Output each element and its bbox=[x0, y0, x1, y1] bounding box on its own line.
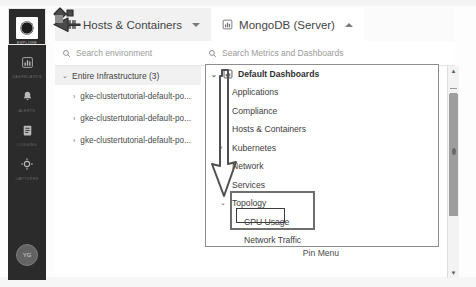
tree-label-node-1: gke-clustertutorial-default-po... bbox=[80, 92, 191, 101]
menu-label-cpu-usage: CPU Usage bbox=[244, 217, 289, 227]
scrollbar-down-arrow[interactable]: ▼ bbox=[448, 268, 459, 278]
tree-label-entire-infrastructure: Entire Infrastructure (3) bbox=[72, 71, 159, 81]
menu-label-applications: Applications bbox=[232, 87, 278, 97]
tab-hosts-and-containers[interactable]: Hosts & Containers bbox=[55, 8, 211, 41]
bar-chart-icon bbox=[16, 51, 38, 73]
rail-item-alerts[interactable]: Alerts bbox=[8, 79, 46, 113]
search-metrics-input[interactable]: Search Metrics and Dashboards bbox=[201, 41, 455, 66]
tree-item-node-3[interactable]: › gke-clustertutorial-default-po... bbox=[55, 129, 201, 151]
rail-item-captures[interactable]: Captures bbox=[8, 147, 46, 181]
left-nav-rail: Explore Dashboards Alerts bbox=[8, 8, 46, 280]
menu-label-topology: Topology bbox=[232, 198, 266, 208]
scrollbar-marker bbox=[452, 148, 456, 155]
chevron-right-icon[interactable]: › bbox=[73, 93, 75, 100]
compass-icon bbox=[16, 17, 38, 39]
tab-label-hosts-and-containers: Hosts & Containers bbox=[83, 19, 182, 31]
search-environment-input[interactable]: Search environment bbox=[55, 41, 201, 66]
menu-item-hosts-and-containers[interactable]: Hosts & Containers bbox=[206, 120, 438, 139]
grid-icon bbox=[66, 19, 77, 30]
page-edge-bottom bbox=[0, 277, 476, 287]
tree-item-node-2[interactable]: › gke-clustertutorial-default-po... bbox=[55, 107, 201, 129]
chevron-right-icon[interactable]: › bbox=[73, 115, 75, 122]
environment-panel: Search environment ⌄ Entire Infrastructu… bbox=[55, 41, 202, 273]
dashboards-panel: Search Metrics and Dashboards ⌄ Default … bbox=[201, 41, 455, 273]
menu-item-applications[interactable]: Applications bbox=[206, 83, 438, 102]
pin-menu-label: Pin Menu bbox=[303, 248, 339, 258]
menu-item-compliance[interactable]: Compliance bbox=[206, 102, 438, 121]
menu-label-default-dashboards: Default Dashboards bbox=[238, 69, 319, 79]
menu-label-kubernetes: Kubernetes bbox=[232, 143, 276, 153]
rail-item-logging[interactable]: Logging bbox=[8, 113, 46, 147]
search-icon bbox=[208, 49, 217, 58]
menu-label-hosts-and-containers: Hosts & Containers bbox=[232, 124, 306, 134]
tree-item-entire-infrastructure[interactable]: ⌄ Entire Infrastructure (3) bbox=[55, 66, 201, 85]
menu-item-services[interactable]: Services bbox=[206, 176, 438, 195]
dashboards-menu: ⌄ Default Dashboards Applications Compli… bbox=[205, 64, 439, 247]
rail-label-captures: Captures bbox=[15, 177, 38, 181]
avatar[interactable]: YG bbox=[16, 244, 38, 266]
bell-icon bbox=[16, 85, 38, 107]
application-window: Explore Dashboards Alerts bbox=[0, 0, 476, 287]
menu-label-compliance: Compliance bbox=[232, 106, 277, 116]
page-edge-top bbox=[0, 0, 476, 6]
avatar-initials: YG bbox=[23, 252, 32, 258]
pin-menu-button[interactable]: Pin Menu bbox=[205, 248, 437, 258]
scrollbar-up-arrow[interactable]: ▲ bbox=[448, 66, 459, 76]
menu-item-network[interactable]: Network bbox=[206, 157, 438, 176]
tab-label-mongodb-server: MongoDB (Server) bbox=[239, 19, 335, 31]
vertical-scrollbar[interactable]: ▲ ▼ bbox=[447, 66, 459, 278]
search-environment-placeholder: Search environment bbox=[76, 48, 152, 58]
menu-item-network-traffic[interactable]: Network Traffic bbox=[206, 231, 438, 250]
scrollbar-track[interactable] bbox=[448, 76, 459, 268]
tab-mongodb-server[interactable]: MongoDB (Server) bbox=[211, 8, 364, 41]
tree-label-node-2: gke-clustertutorial-default-po... bbox=[80, 114, 191, 123]
tree-label-node-3: gke-clustertutorial-default-po... bbox=[80, 136, 191, 145]
chevron-down-icon[interactable] bbox=[192, 23, 200, 27]
rail-item-explore[interactable]: Explore bbox=[8, 8, 46, 45]
menu-item-topology[interactable]: ⌄ Topology bbox=[206, 194, 438, 213]
rail-item-dashboards[interactable]: Dashboards bbox=[8, 45, 46, 79]
document-icon bbox=[16, 119, 38, 141]
target-icon bbox=[16, 153, 38, 175]
menu-label-services: Services bbox=[232, 180, 265, 190]
chevron-down-icon[interactable]: ⌄ bbox=[220, 199, 226, 207]
menu-item-kubernetes[interactable]: › Kubernetes bbox=[206, 139, 438, 158]
chevron-right-icon[interactable]: › bbox=[220, 144, 222, 151]
search-icon bbox=[62, 49, 71, 58]
chevron-down-icon[interactable]: ⌄ bbox=[62, 72, 68, 79]
tab-bar: Hosts & Containers MongoDB (Server) bbox=[55, 8, 455, 42]
menu-item-cpu-usage[interactable]: CPU Usage bbox=[206, 213, 438, 232]
chevron-up-icon[interactable] bbox=[345, 23, 353, 27]
menu-item-default-dashboards[interactable]: ⌄ Default Dashboards bbox=[206, 65, 438, 83]
menu-label-network: Network bbox=[232, 161, 264, 171]
tree-item-node-1[interactable]: › gke-clustertutorial-default-po... bbox=[55, 85, 201, 107]
menu-label-network-traffic: Network Traffic bbox=[244, 235, 301, 245]
scrollbar-thumb[interactable] bbox=[449, 94, 458, 216]
chevron-right-icon[interactable]: › bbox=[73, 137, 75, 144]
bar-chart-icon bbox=[222, 19, 233, 30]
bar-chart-icon bbox=[222, 69, 233, 80]
search-metrics-placeholder: Search Metrics and Dashboards bbox=[222, 48, 343, 58]
chevron-down-icon[interactable]: ⌄ bbox=[211, 71, 217, 78]
